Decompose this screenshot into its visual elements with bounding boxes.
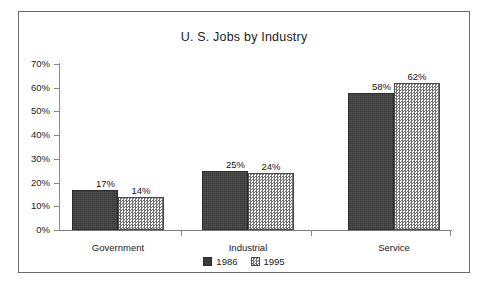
x-axis-category-label-service: Service <box>378 242 410 253</box>
y-axis-tick: 60% <box>54 88 60 89</box>
y-axis-tick-label: 10% <box>10 200 50 211</box>
x-axis-separator <box>450 230 451 236</box>
y-axis-tick: 50% <box>54 111 60 112</box>
y-axis-tick-label: 20% <box>10 177 50 188</box>
chart-frame: U. S. Jobs by Industry 70% 60% 50% 40% 3… <box>18 11 470 273</box>
x-axis-separator <box>181 230 182 236</box>
x-axis-category-label-government: Government <box>92 242 144 253</box>
bar-value-label: 24% <box>261 161 280 172</box>
y-axis-tick-label: 50% <box>10 105 50 116</box>
bar-value-label: 58% <box>372 81 391 92</box>
bar-industrial-1995[interactable]: 24% <box>248 173 294 230</box>
bar-government-1995[interactable]: 14% <box>118 197 164 230</box>
chart-legend: 1986 1995 <box>19 256 469 267</box>
legend-item-1986[interactable]: 1986 <box>203 256 237 267</box>
y-axis-tick-label: 0% <box>10 224 50 235</box>
bar-service-1986[interactable]: 58% <box>348 93 394 231</box>
bar-value-label: 62% <box>407 71 426 82</box>
x-axis-separator <box>311 230 312 236</box>
legend-label: 1995 <box>264 256 285 267</box>
bar-service-1995[interactable]: 62% <box>394 83 440 230</box>
bar-value-label: 17% <box>96 178 115 189</box>
legend-swatch-icon <box>203 257 212 266</box>
bar-industrial-1986[interactable]: 25% <box>202 171 248 230</box>
plot-area: 70% 60% 50% 40% 30% 20% 10% 0% 17% <box>59 64 452 230</box>
y-axis-tick: 10% <box>54 206 60 207</box>
y-axis-tick: 40% <box>54 135 60 136</box>
y-axis-tick: 20% <box>54 183 60 184</box>
x-axis-line <box>59 230 452 231</box>
legend-item-1995[interactable]: 1995 <box>251 256 285 267</box>
y-axis-tick: 0% <box>54 230 60 231</box>
y-axis-tick-label: 40% <box>10 129 50 140</box>
y-axis-tick-label: 70% <box>10 58 50 69</box>
bar-government-1986[interactable]: 17% <box>72 190 118 230</box>
y-axis-tick: 30% <box>54 159 60 160</box>
x-axis-category-label-industrial: Industrial <box>229 242 268 253</box>
bar-value-label: 25% <box>226 159 245 170</box>
y-axis-tick: 70% <box>54 64 60 65</box>
y-axis-tick-label: 30% <box>10 153 50 164</box>
bar-value-label: 14% <box>131 185 150 196</box>
legend-label: 1986 <box>216 256 237 267</box>
legend-swatch-icon <box>251 257 260 266</box>
chart-title: U. S. Jobs by Industry <box>19 30 469 44</box>
y-axis-tick-label: 60% <box>10 82 50 93</box>
